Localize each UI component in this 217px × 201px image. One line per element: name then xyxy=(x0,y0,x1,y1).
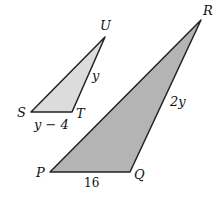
vertex-label-u: U xyxy=(100,18,112,33)
side-label-qr: 2y xyxy=(169,94,186,109)
vertex-label-p: P xyxy=(35,165,45,180)
similar-triangles-diagram: U S T y y − 4 R P Q 2y 16 xyxy=(0,0,217,201)
vertex-label-r: R xyxy=(202,3,213,18)
vertex-label-q: Q xyxy=(134,167,145,182)
side-label-tu: y xyxy=(91,68,100,83)
side-label-pq: 16 xyxy=(84,176,99,190)
side-label-st: y − 4 xyxy=(33,117,69,132)
vertex-label-s: S xyxy=(17,105,26,120)
vertex-label-t: T xyxy=(76,106,86,121)
